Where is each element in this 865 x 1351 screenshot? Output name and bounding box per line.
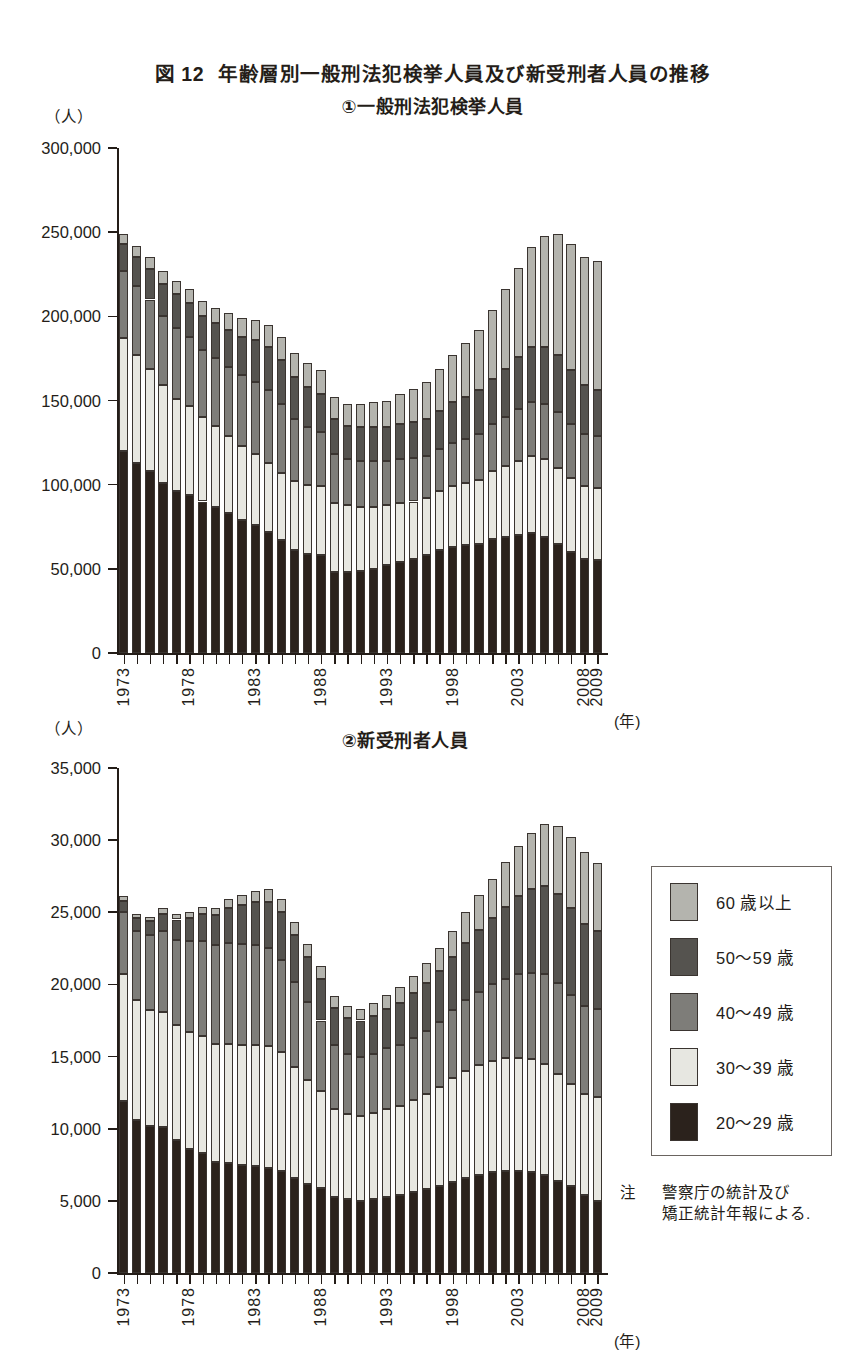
bar-segment <box>514 1171 523 1273</box>
bar-segment <box>356 1009 365 1021</box>
bar-segment <box>119 896 128 900</box>
y-tick-label: 5,000 <box>0 1191 101 1210</box>
bar-segment <box>277 899 286 912</box>
bar-1985 <box>277 768 286 1274</box>
bar-segment <box>343 1006 352 1018</box>
bar-segment <box>409 976 418 993</box>
bar-segment <box>172 914 181 920</box>
bar-2007 <box>566 768 575 1274</box>
legend: 60 歳以上50〜59 歳40〜49 歳30〜39 歳20〜29 歳 <box>651 866 832 1156</box>
bar-segment <box>448 1078 457 1182</box>
y-tick-label: 25,000 <box>0 903 101 922</box>
x-tick-mark <box>242 1274 243 1284</box>
x-tick-mark <box>453 1274 454 1284</box>
y-tick-mark <box>108 1128 117 1130</box>
note-line-2: 矯正統計年報による. <box>662 1203 810 1224</box>
x-tick-mark <box>124 1274 125 1284</box>
y-tick-label: 20,000 <box>0 975 101 994</box>
bar-segment <box>566 837 575 908</box>
bar-segment <box>580 1094 589 1195</box>
bar-segment <box>448 1182 457 1273</box>
bar-1995 <box>409 768 418 1274</box>
bar-segment <box>158 931 167 1012</box>
bar-1997 <box>435 768 444 1274</box>
bar-segment <box>356 1201 365 1273</box>
bar-segment <box>172 940 181 1025</box>
bar-1996 <box>422 768 431 1274</box>
bar-segment <box>224 899 233 908</box>
bar-segment <box>303 957 312 1002</box>
x-tick-mark <box>413 1274 414 1284</box>
bar-segment <box>369 1054 378 1113</box>
bar-segment <box>119 1101 128 1273</box>
bar-segment <box>237 905 246 944</box>
bar-segment <box>527 889 536 973</box>
bar-segment <box>198 914 207 941</box>
bar-segment <box>448 957 457 1010</box>
bar-1986 <box>290 768 299 1274</box>
bar-segment <box>474 1065 483 1175</box>
legend-label: 30〜39 歳 <box>716 1055 795 1079</box>
x-tick-label-1973: 1973 <box>115 1287 133 1327</box>
bar-segment <box>132 914 141 918</box>
x-tick-mark <box>163 1274 164 1284</box>
bar-segment <box>369 1113 378 1200</box>
x-tick-mark <box>466 1274 467 1284</box>
bar-segment <box>435 1022 444 1087</box>
bar-segment <box>461 912 470 942</box>
x-tick-mark <box>295 1274 296 1284</box>
x-tick-mark <box>268 1274 269 1284</box>
bar-1977 <box>172 768 181 1274</box>
bar-segment <box>290 922 299 935</box>
x-tick-label-1988: 1988 <box>312 1287 330 1327</box>
bar-segment <box>580 924 589 1006</box>
x-tick-mark <box>532 1274 533 1284</box>
bar-segment <box>422 963 431 983</box>
bar-segment <box>448 1010 457 1078</box>
bar-segment <box>145 1126 154 1273</box>
bar-segment <box>251 891 260 903</box>
bar-segment <box>185 912 194 918</box>
bar-segment <box>224 908 233 943</box>
bar-segment <box>145 935 154 1010</box>
bar-segment <box>224 943 233 1044</box>
bar-segment <box>356 1116 365 1201</box>
y-tick-label: 30,000 <box>0 831 101 850</box>
bar-segment <box>211 915 220 945</box>
x-tick-mark <box>426 1274 427 1284</box>
bar-segment <box>422 1189 431 1273</box>
bar-segment <box>474 1175 483 1273</box>
bar-segment <box>501 1058 510 1171</box>
source-note: 注 警察庁の統計及び 矯正統計年報による. <box>620 1182 810 1225</box>
bar-segment <box>185 1149 194 1273</box>
y-tick-mark <box>108 839 117 841</box>
bar-segment <box>316 1021 325 1092</box>
bar-segment <box>435 1087 444 1187</box>
bar-segment <box>264 889 273 902</box>
bar-segment <box>553 983 562 1074</box>
x-tick-mark <box>545 1274 546 1284</box>
x-tick-label-1998: 1998 <box>444 1287 462 1327</box>
bar-segment <box>593 1201 602 1273</box>
bar-segment <box>540 974 549 1063</box>
bar-segment <box>527 833 536 889</box>
y-tick-mark <box>108 1272 117 1274</box>
bar-segment <box>198 1036 207 1153</box>
bar-1984 <box>264 768 273 1274</box>
bar-segment <box>251 1045 260 1166</box>
bar-segment <box>172 1140 181 1273</box>
bar-segment <box>409 1100 418 1192</box>
bar-segment <box>395 987 404 1003</box>
x-tick-mark <box>597 1274 598 1284</box>
bar-segment <box>343 1054 352 1115</box>
bar-segment <box>461 943 470 1001</box>
bar-segment <box>501 907 510 979</box>
bar-segment <box>224 1163 233 1273</box>
bar-segment <box>303 1002 312 1080</box>
bar-segment <box>172 1025 181 1140</box>
bar-segment <box>343 1018 352 1054</box>
x-tick-mark <box>492 1274 493 1284</box>
note-label: 注 <box>620 1182 636 1203</box>
x-tick-label-1993: 1993 <box>378 1287 396 1327</box>
bar-segment <box>553 894 562 983</box>
